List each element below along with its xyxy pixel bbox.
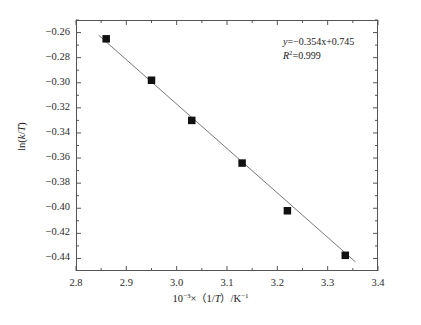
- y-axis-title-text: ln(k/T): [16, 122, 27, 151]
- x-tick-label: 3.1: [207, 277, 247, 288]
- x-axis-title: 10−3×（1/T）/K−1: [0, 290, 421, 305]
- x-axis-title-text: 10−3×（1/T）/K−1: [172, 293, 248, 304]
- y-tick-label: −0.40: [28, 201, 70, 212]
- y-tick-label: −0.38: [28, 176, 70, 187]
- y-tick-label: −0.34: [28, 126, 70, 137]
- x-tick-label: 3.2: [257, 277, 297, 288]
- y-tick-label: −0.44: [28, 251, 70, 262]
- figure-canvas: −0.26−0.28−0.30−0.32−0.34−0.36−0.38−0.40…: [0, 0, 421, 325]
- y-tick-label: −0.30: [28, 76, 70, 87]
- y-axis-title: ln(k/T): [16, 102, 27, 172]
- x-tick-label: 3.4: [358, 277, 398, 288]
- tick-marks: [76, 20, 378, 271]
- y-tick-label: −0.26: [28, 26, 70, 37]
- fit-equation-annotation: y=−0.354x+0.745: [283, 36, 354, 47]
- fit-line: [99, 35, 356, 262]
- x-tick-label: 3.0: [157, 277, 197, 288]
- x-tick-label: 2.8: [56, 277, 96, 288]
- x-tick-label: 3.3: [308, 277, 348, 288]
- y-tick-label: −0.36: [28, 151, 70, 162]
- fit-equation-text: =−0.354x+0.745: [287, 36, 354, 47]
- r-squared-annotation: R2=0.999: [283, 49, 321, 61]
- y-tick-label: −0.32: [28, 101, 70, 112]
- y-tick-label: −0.28: [28, 51, 70, 62]
- y-tick-label: −0.42: [28, 226, 70, 237]
- x-tick-label: 2.9: [106, 277, 146, 288]
- r-squared-value: =0.999: [293, 50, 321, 61]
